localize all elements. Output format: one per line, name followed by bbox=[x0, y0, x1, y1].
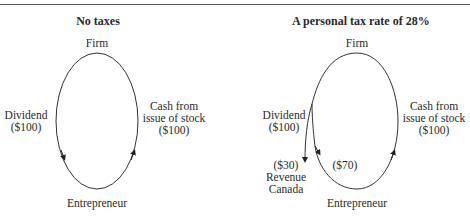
issue-of-stock-label: issue of stock bbox=[402, 112, 466, 124]
node-entrepreneur: Entrepreneur bbox=[62, 197, 132, 209]
canada-label: Canada bbox=[262, 183, 310, 195]
panel-title-no-taxes: No taxes bbox=[58, 14, 138, 29]
dividend-amount: ($100) bbox=[258, 121, 310, 133]
panel-title-tax-28: A personal tax rate of 28% bbox=[292, 14, 422, 29]
dividend-amount: ($100) bbox=[0, 121, 52, 133]
node-entrepreneur: Entrepreneur bbox=[322, 197, 392, 209]
issue-of-stock-label: issue of stock bbox=[142, 112, 206, 124]
node-firm: Firm bbox=[337, 37, 377, 49]
cash-from-label: Cash from bbox=[402, 100, 466, 112]
cash-from-label: Cash from bbox=[142, 100, 206, 112]
revenue-label: Revenue bbox=[262, 171, 310, 183]
tax-amount: ($30) bbox=[268, 159, 304, 171]
dividend-label: Dividend bbox=[0, 109, 52, 121]
right-stock-arrow-icon bbox=[391, 152, 394, 160]
node-firm: Firm bbox=[77, 37, 117, 49]
net-dividend-amount: ($70) bbox=[327, 159, 363, 171]
flow-diagram-graphics bbox=[0, 0, 470, 216]
dividend-label: Dividend bbox=[258, 109, 310, 121]
left-stock-arrow-icon bbox=[131, 152, 134, 160]
stock-amount: ($100) bbox=[402, 124, 466, 136]
stock-amount: ($100) bbox=[142, 124, 206, 136]
left-cycle-ellipse bbox=[56, 53, 138, 189]
